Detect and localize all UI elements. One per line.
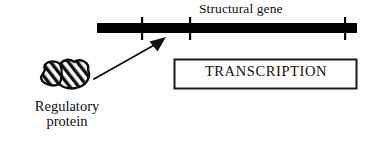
regulation-arrow [94,37,166,79]
gene-tick-mark-3 [344,17,346,40]
gene-tick-mark-1 [141,17,143,40]
regulatory-protein-shape [41,60,89,89]
structural-gene-bar [97,23,357,33]
gene-regulation-diagram: Structural gene TRANSCRIPTION Regulatory… [0,0,375,143]
regulatory-protein-caption: Regulatory protein [8,99,126,129]
gene-tick-mark-2 [189,17,191,40]
regulatory-protein-caption-line2: protein [8,114,126,129]
structural-gene-label: Structural gene [199,2,283,16]
transcription-label: TRANSCRIPTION [176,64,356,79]
regulatory-protein-caption-line1: Regulatory [35,98,99,114]
